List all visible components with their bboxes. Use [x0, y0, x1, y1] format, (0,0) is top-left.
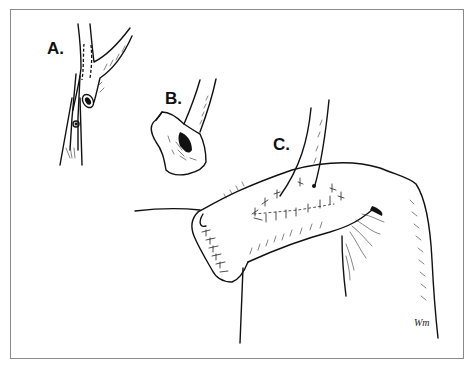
vessel-a-right-wall	[90, 24, 130, 62]
vessel-b-left	[184, 80, 200, 124]
suture-thread-horizontal	[135, 209, 200, 211]
incision-dashed-line-2	[90, 45, 92, 78]
bowel-cut-end-fold	[200, 214, 206, 226]
vessel-a-lower-hatching	[66, 146, 75, 158]
vessel-c-right	[315, 100, 329, 185]
incision-dashed-line	[82, 44, 84, 80]
surgical-illustration: A. B. C.	[0, 0, 475, 370]
bowel-lower-contour	[248, 210, 372, 262]
bowel-upper-contour	[198, 163, 438, 338]
panel-a: A.	[47, 24, 132, 165]
vessel-b-right	[200, 79, 216, 132]
panel-b-label: B.	[165, 89, 182, 108]
vessel-c-anastomosis	[312, 184, 316, 188]
panel-c-label: C.	[273, 135, 290, 154]
bowel-descending-left	[342, 236, 346, 296]
panel-b: B.	[152, 79, 217, 175]
cuff-suture-line	[254, 204, 334, 214]
vessel-a-branch-lower	[94, 36, 132, 102]
vessel-b-cuff	[152, 112, 207, 175]
vessel-b-lumen	[179, 132, 193, 153]
bowel-right-hatching	[410, 200, 426, 300]
suture-thread-vertical	[240, 268, 243, 343]
panel-a-label: A.	[47, 39, 64, 58]
clamp-pivot-dot	[75, 123, 78, 126]
artist-signature: Wm	[414, 317, 430, 328]
vessel-b-cuff-lip	[156, 112, 162, 120]
